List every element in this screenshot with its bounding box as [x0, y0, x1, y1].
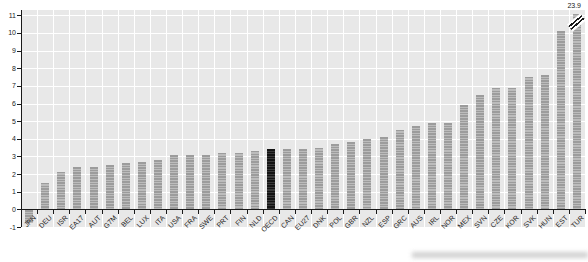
x-axis-tick: [343, 210, 344, 214]
y-axis-tick: [17, 156, 21, 157]
x-axis-tick: [102, 210, 103, 214]
bar-oecd: [267, 149, 275, 209]
y-axis-tick: [17, 139, 21, 140]
v-gridline: [488, 10, 489, 227]
v-gridline: [440, 10, 441, 227]
bar-cze: [492, 88, 500, 210]
bar-fin: [235, 153, 243, 209]
bar-nld: [251, 151, 259, 209]
v-gridline: [537, 10, 538, 227]
x-axis-tick: [359, 210, 360, 214]
y-axis-tick: [17, 33, 21, 34]
bar-fra: [186, 155, 194, 210]
v-gridline: [150, 10, 151, 227]
v-gridline: [376, 10, 377, 227]
bar-tur: [573, 14, 581, 210]
y-axis-label: -1: [0, 224, 16, 231]
h-gridline: [21, 15, 585, 16]
y-axis-tick: [17, 86, 21, 87]
y-axis-label: 1: [0, 188, 16, 195]
bar-irl: [428, 123, 436, 209]
x-axis-tick: [376, 210, 377, 214]
bar-ea17: [73, 167, 81, 209]
h-gridline: [21, 51, 585, 52]
v-gridline: [247, 10, 248, 227]
x-axis-tick: [472, 210, 473, 214]
x-axis-tick: [311, 210, 312, 214]
x-axis-tick: [182, 210, 183, 214]
x-axis-tick: [440, 210, 441, 214]
y-axis-label: 2: [0, 171, 16, 178]
v-gridline: [504, 10, 505, 227]
v-gridline: [343, 10, 344, 227]
y-axis-tick: [17, 192, 21, 193]
y-axis-label: 6: [0, 100, 16, 107]
x-axis-tick: [118, 210, 119, 214]
x-axis-zero-line: [21, 209, 586, 210]
v-gridline: [198, 10, 199, 227]
y-axis-label: 4: [0, 135, 16, 142]
x-axis-tick: [263, 210, 264, 214]
bar-can: [283, 149, 291, 209]
y-axis-tick: [17, 68, 21, 69]
bar-isr: [57, 172, 65, 209]
v-gridline: [456, 10, 457, 227]
h-gridline: [21, 121, 585, 122]
v-gridline: [214, 10, 215, 227]
bar-usa: [170, 155, 178, 210]
x-axis-tick: [537, 210, 538, 214]
x-axis-tick: [279, 210, 280, 214]
v-gridline: [263, 10, 264, 227]
h-gridline: [21, 86, 585, 87]
v-gridline: [472, 10, 473, 227]
v-gridline: [118, 10, 119, 227]
y-axis-tick: [17, 104, 21, 105]
bar-nzl: [363, 139, 371, 210]
bar-mex: [460, 105, 468, 209]
bar-aus: [412, 126, 420, 209]
v-gridline: [553, 10, 554, 227]
v-gridline: [37, 10, 38, 227]
v-gridline: [102, 10, 103, 227]
x-axis-tick: [521, 210, 522, 214]
bar-dnk: [315, 148, 323, 210]
x-axis-tick: [134, 210, 135, 214]
v-gridline: [85, 10, 86, 227]
bar-ita: [154, 160, 162, 209]
x-axis-tick: [504, 210, 505, 214]
x-axis-tick: [150, 210, 151, 214]
bar-est: [557, 31, 565, 209]
x-axis-tick: [553, 210, 554, 214]
v-gridline: [230, 10, 231, 227]
y-axis-tick: [17, 121, 21, 122]
bar-prt: [218, 153, 226, 209]
bar-svn: [476, 95, 484, 210]
bar-bel: [122, 163, 130, 209]
v-gridline: [182, 10, 183, 227]
x-axis-tick: [488, 210, 489, 214]
bar-esp: [380, 137, 388, 209]
bar-swe: [202, 155, 210, 210]
y-axis-label: 10: [0, 29, 16, 36]
x-axis-tick: [327, 210, 328, 214]
v-gridline: [69, 10, 70, 227]
outlier-value-label: 23.9: [567, 2, 581, 9]
v-gridline: [521, 10, 522, 227]
bar-hun: [541, 75, 549, 209]
y-axis-tick: [17, 209, 21, 210]
v-gridline: [392, 10, 393, 227]
h-gridline: [21, 68, 585, 69]
v-gridline: [424, 10, 425, 227]
x-axis-tick: [21, 210, 22, 214]
bar-lux: [138, 162, 146, 210]
y-axis-label: 7: [0, 82, 16, 89]
y-axis-label: 9: [0, 47, 16, 54]
v-gridline: [166, 10, 167, 227]
x-axis-tick: [456, 210, 457, 214]
v-gridline: [134, 10, 135, 227]
h-gridline: [21, 33, 585, 34]
bar-kor: [508, 88, 516, 210]
x-axis-tick: [569, 210, 570, 214]
y-axis-label: 0: [0, 206, 16, 213]
